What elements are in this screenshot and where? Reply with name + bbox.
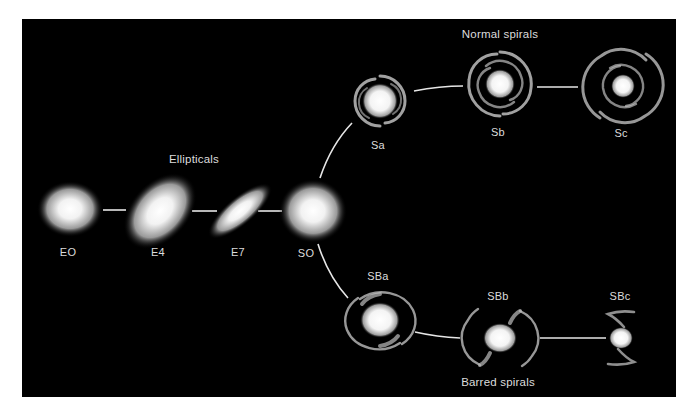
galaxy-label-e0: EO (60, 246, 76, 258)
galaxy-sa-icon (355, 76, 405, 126)
group-label-barred-spirals: Barred spirals (461, 376, 535, 388)
galaxy-label-sbb: SBb (487, 290, 508, 302)
galaxy-e0-icon (37, 181, 103, 237)
tuning-fork-diagram (0, 0, 697, 415)
galaxy-sb-icon (469, 52, 532, 116)
galaxy-label-sa: Sa (371, 139, 385, 151)
galaxy-sc-icon (583, 49, 663, 122)
group-label-normal-spirals: Normal spirals (462, 28, 538, 40)
galaxy-label-sc: Sc (614, 127, 627, 139)
galaxy-sbb-icon (462, 309, 539, 366)
group-label-ellipticals: Ellipticals (169, 153, 219, 165)
galaxy-sba-icon (345, 292, 415, 349)
galaxy-label-sb: Sb (491, 126, 505, 138)
galaxy-label-e7: E7 (231, 246, 245, 258)
galaxy-label-s0: SO (298, 247, 314, 259)
galaxy-label-e4: E4 (151, 246, 165, 258)
galaxy-s0-icon (279, 179, 347, 243)
galaxy-label-sba: SBa (367, 270, 388, 282)
galaxy-label-sbc: SBc (610, 290, 631, 302)
galaxy-sbc-icon (608, 311, 634, 364)
